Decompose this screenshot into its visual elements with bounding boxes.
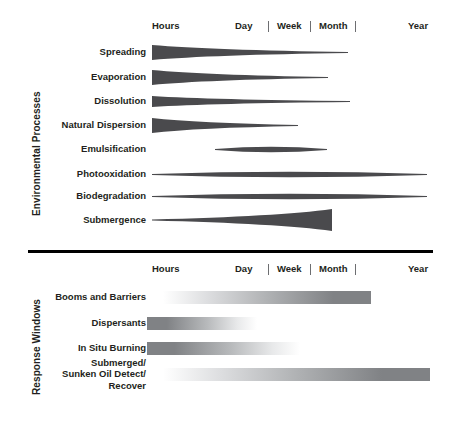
process-label-photooxidation: Photooxidation: [50, 168, 146, 180]
axis-tick-hours-top: Hours: [152, 18, 179, 34]
process-bar-dissolution: [152, 95, 350, 108]
process-label-submergence: Submergence: [50, 214, 146, 226]
axis-separator-0-bottom: [268, 264, 269, 275]
process-bar-biodegradation: [152, 193, 427, 200]
section-divider: [28, 250, 433, 253]
process-bar-emulsification: [215, 146, 327, 153]
axis-tick-day-top: Day: [235, 18, 252, 34]
response-bar-booms-and-barriers: [163, 291, 371, 304]
axis-tick-week-bottom: Week: [277, 261, 302, 277]
oil-spill-timeline-figure: HoursDayWeekMonthYear Environmental Proc…: [0, 0, 453, 424]
axis-separator-2-top: [355, 21, 356, 32]
response-bar-submerged-sunken-oil-detect-recover: [163, 368, 430, 381]
response-label-dispersants: Dispersants: [30, 317, 146, 329]
response-label-in-situ-burning: In Situ Burning: [30, 342, 146, 354]
process-label-natural-dispersion: Natural Dispersion: [50, 119, 146, 131]
axis-separator-2-bottom: [355, 264, 356, 275]
process-label-spreading: Spreading: [50, 46, 146, 58]
process-bar-natural-dispersion: [152, 117, 298, 134]
process-bar-evaporation: [152, 69, 328, 86]
axis-separator-1-top: [310, 21, 311, 32]
process-bar-submergence: [152, 208, 332, 232]
process-label-dissolution: Dissolution: [50, 95, 146, 107]
axis-tick-month-bottom: Month: [319, 261, 348, 277]
axis-separator-0-top: [268, 21, 269, 32]
axis-tick-hours-bottom: Hours: [152, 261, 179, 277]
axis-separator-1-bottom: [310, 264, 311, 275]
axis-labels-top: HoursDayWeekMonthYear: [0, 18, 453, 34]
process-label-evaporation: Evaporation: [50, 71, 146, 83]
axis-tick-week-top: Week: [277, 18, 302, 34]
response-label-booms-and-barriers: Booms and Barriers: [30, 291, 146, 303]
process-bar-spreading: [152, 44, 348, 61]
response-bar-dispersants: [147, 317, 257, 330]
process-bar-photooxidation: [152, 171, 427, 178]
axis-tick-year-top: Year: [408, 18, 428, 34]
axis-tick-day-bottom: Day: [235, 261, 252, 277]
axis-labels-bottom: HoursDayWeekMonthYear: [0, 261, 453, 277]
response-bar-in-situ-burning: [147, 342, 300, 355]
axis-tick-month-top: Month: [319, 18, 348, 34]
process-label-emulsification: Emulsification: [50, 143, 146, 155]
response-label-submerged-sunken-oil-detect-recover: Submerged/ Sunken Oil Detect/ Recover: [30, 357, 146, 392]
axis-tick-year-bottom: Year: [408, 261, 428, 277]
section-title-environmental-processes: Environmental Processes: [31, 91, 42, 216]
process-label-biodegradation: Biodegradation: [50, 190, 146, 202]
